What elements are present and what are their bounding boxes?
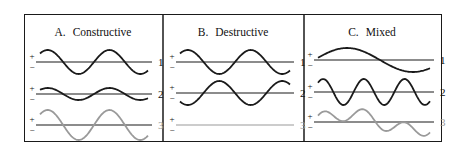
plus-sign: + bbox=[307, 49, 312, 59]
row-number-label: 3 bbox=[300, 119, 306, 131]
minus-sign: − bbox=[307, 122, 312, 132]
plus-sign: + bbox=[29, 83, 34, 93]
row-number-label: 3 bbox=[440, 116, 446, 128]
minus-sign: − bbox=[29, 94, 34, 104]
plus-sign: + bbox=[169, 51, 174, 61]
wave-row-c-1: +−1 bbox=[307, 48, 445, 72]
row-number-label: 1 bbox=[300, 56, 306, 68]
wave-row-b-2: +−2 bbox=[169, 81, 305, 105]
minus-sign: − bbox=[169, 93, 174, 103]
minus-sign: − bbox=[169, 125, 174, 135]
wave-row-b-3: +−3 bbox=[169, 114, 306, 135]
plus-sign: + bbox=[29, 114, 34, 124]
plus-sign: + bbox=[169, 114, 174, 124]
minus-sign: − bbox=[29, 62, 34, 72]
row-number-label: 1 bbox=[440, 54, 446, 66]
wave-row-a-2: +−2 bbox=[29, 83, 163, 104]
minus-sign: − bbox=[29, 125, 34, 135]
wave-row-a-3: +−3 bbox=[29, 110, 164, 140]
minus-sign: − bbox=[307, 60, 312, 70]
wave-row-b-1: +−1 bbox=[169, 50, 305, 74]
wave-row-c-3: +−3 bbox=[307, 109, 446, 136]
row-number-label: 2 bbox=[158, 88, 164, 100]
row-number-label: 1 bbox=[158, 56, 164, 68]
wave-row-a-1: +−1 bbox=[29, 50, 163, 74]
plus-sign: + bbox=[29, 51, 34, 61]
row-number-label: 3 bbox=[158, 119, 164, 131]
minus-sign: − bbox=[307, 92, 312, 102]
row-number-label: 2 bbox=[440, 86, 446, 98]
plus-sign: + bbox=[307, 81, 312, 91]
wave-row-c-2: +−2 bbox=[307, 79, 445, 105]
interference-diagram: A.Constructive B.Destructive C.Mixed +−1… bbox=[0, 0, 465, 148]
row-number-label: 2 bbox=[300, 87, 306, 99]
plus-sign: + bbox=[307, 111, 312, 121]
plus-sign: + bbox=[169, 82, 174, 92]
minus-sign: − bbox=[169, 62, 174, 72]
waves-canvas: +−1+−2+−3+−1+−2+−3+−1+−2+−3 bbox=[0, 0, 465, 148]
